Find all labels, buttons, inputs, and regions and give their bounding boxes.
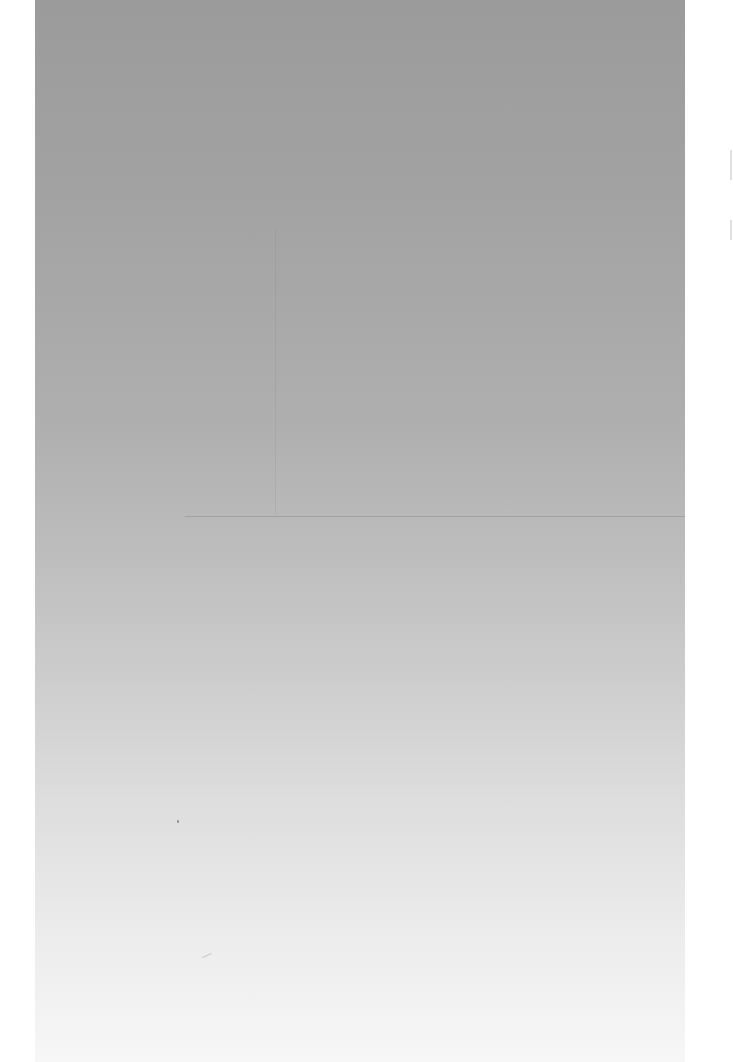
dust-speck: [177, 820, 179, 823]
margin-artifact: [730, 150, 732, 180]
scanned-page: [35, 0, 685, 1062]
dust-speck: [202, 953, 211, 958]
vertical-fold-crease: [275, 230, 276, 515]
margin-artifact: [730, 220, 732, 240]
horizontal-fold-crease: [185, 516, 685, 517]
